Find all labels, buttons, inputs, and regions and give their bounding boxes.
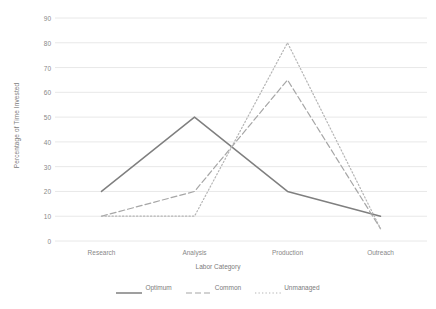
x-axis-tick-label-analysis: Analysis <box>182 249 206 256</box>
x-axis-tick-label-outreach: Outreach <box>367 249 394 256</box>
y-axis-tick-label: 80 <box>44 39 51 46</box>
y-axis-title-label: Percentage of Time Invested <box>14 82 21 167</box>
y-axis-tick-label: 40 <box>44 138 51 145</box>
x-axis-tick-label-research: Research <box>88 249 116 256</box>
legend-item-optimum[interactable]: Optimum <box>116 283 171 291</box>
line-chart: Percentage of Time Invested 010203040506… <box>0 0 436 309</box>
series-lines <box>102 43 381 229</box>
y-axis-tick-label: 0 <box>47 238 51 245</box>
plot-svg <box>55 18 427 241</box>
y-axis-tick-label: 60 <box>44 89 51 96</box>
y-axis-tick-label: 50 <box>44 114 51 121</box>
y-axis-tick-label: 70 <box>44 64 51 71</box>
x-axis-tick-label-production: Production <box>272 249 303 256</box>
y-axis-tick-label: 10 <box>44 213 51 220</box>
x-axis-title-label: Labor Category <box>196 263 241 270</box>
legend-label-optimum: Optimum <box>145 284 171 291</box>
legend-label-common: Common <box>215 284 241 291</box>
legend-swatch-optimum <box>116 283 142 291</box>
y-axis-tick-labels: 0102030405060708090 <box>26 18 51 241</box>
plot-area <box>55 18 427 241</box>
y-axis-tick-label: 20 <box>44 188 51 195</box>
x-axis-title: Labor Category <box>0 263 436 270</box>
chart-legend: OptimumCommonUnmanaged <box>0 283 436 291</box>
legend-swatch-common <box>186 283 212 291</box>
legend-item-common[interactable]: Common <box>186 283 241 291</box>
legend-swatch-unmanaged <box>255 283 281 291</box>
x-axis-tick-labels: ResearchAnalysisProductionOutreach <box>55 249 427 261</box>
gridlines <box>55 18 427 241</box>
legend-item-unmanaged[interactable]: Unmanaged <box>255 283 319 291</box>
y-axis-tick-label: 90 <box>44 15 51 22</box>
legend-label-unmanaged: Unmanaged <box>284 284 319 291</box>
y-axis-tick-label: 30 <box>44 163 51 170</box>
series-line-unmanaged <box>102 43 381 229</box>
y-axis-title: Percentage of Time Invested <box>10 0 24 250</box>
